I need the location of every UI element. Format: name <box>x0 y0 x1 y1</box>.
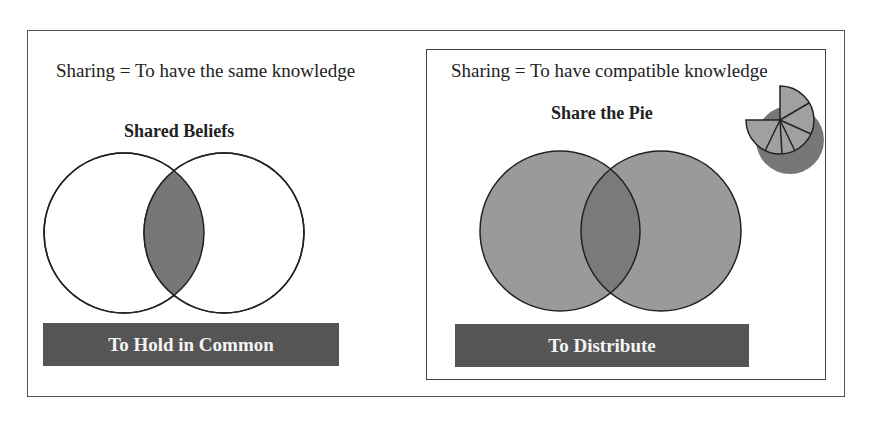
left-label: To Hold in Common <box>43 323 339 366</box>
right-venn <box>480 151 741 311</box>
right-heading: Share the Pie <box>551 103 653 124</box>
pie-slices-icon <box>746 85 824 174</box>
left-definition: Sharing = To have the same knowledge <box>56 60 355 82</box>
left-venn <box>44 153 304 313</box>
right-definition: Sharing = To have compatible knowledge <box>451 60 768 82</box>
left-heading: Shared Beliefs <box>124 121 234 142</box>
right-label: To Distribute <box>455 324 749 367</box>
